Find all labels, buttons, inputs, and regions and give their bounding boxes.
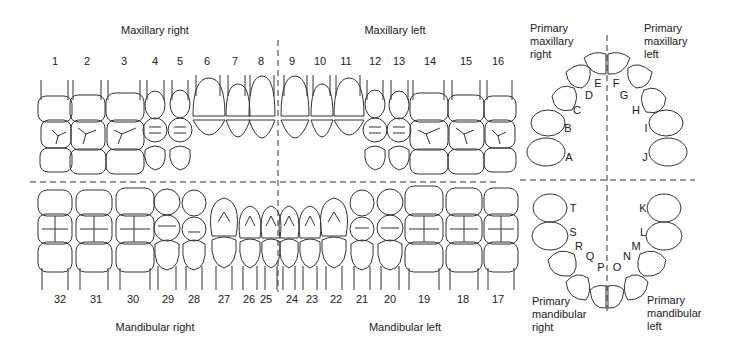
tooth-number: 4 bbox=[152, 55, 158, 67]
primary-tooth-letter: R bbox=[575, 240, 583, 252]
tooth-number: 27 bbox=[218, 293, 230, 305]
primary-tooth-letter: P bbox=[597, 261, 604, 273]
primary-tooth-letter: B bbox=[564, 122, 571, 134]
primary-lower-arch bbox=[532, 194, 682, 308]
tooth-number: 17 bbox=[492, 293, 504, 305]
primary-tooth-letter: I bbox=[644, 122, 647, 134]
tooth-number: 11 bbox=[340, 55, 351, 67]
primary-tooth-letter: N bbox=[623, 250, 631, 262]
tooth-number: 32 bbox=[54, 293, 66, 305]
primary-tooth-letter: E bbox=[594, 77, 601, 89]
primary-tooth-letter: L bbox=[640, 226, 646, 238]
primary-tooth-letter: H bbox=[632, 104, 640, 116]
primary-tooth-letter: D bbox=[585, 89, 593, 101]
primary-label-mandibular-right: Primary mandibular right bbox=[532, 295, 586, 334]
primary-tooth-letter: T bbox=[570, 202, 577, 214]
quadrant-label-maxillary-right: Maxillary right bbox=[121, 24, 189, 36]
primary-tooth-letter: F bbox=[613, 77, 620, 89]
tooth-number: 22 bbox=[330, 293, 342, 305]
tooth-number: 1 bbox=[52, 55, 58, 67]
tooth-number: 18 bbox=[457, 293, 469, 305]
tooth-number: 20 bbox=[384, 293, 396, 305]
primary-tooth-letter: C bbox=[573, 104, 581, 116]
tooth-number: 5 bbox=[177, 55, 183, 67]
tooth-number: 3 bbox=[121, 55, 127, 67]
tooth-number: 23 bbox=[306, 293, 318, 305]
tooth-number: 7 bbox=[232, 55, 238, 67]
primary-label-maxillary-right: Primary maxillary right bbox=[530, 22, 573, 61]
tooth-number: 6 bbox=[204, 55, 210, 67]
primary-tooth-letter: A bbox=[565, 151, 572, 163]
tooth-number: 26 bbox=[243, 293, 255, 305]
tooth-number: 30 bbox=[127, 293, 139, 305]
tooth-number: 13 bbox=[393, 55, 405, 67]
tooth-number: 31 bbox=[90, 293, 102, 305]
tooth-number: 2 bbox=[84, 55, 90, 67]
primary-label-maxillary-left: Primary maxillary left bbox=[644, 22, 687, 61]
primary-tooth-letter: O bbox=[613, 261, 622, 273]
tooth-number: 12 bbox=[369, 55, 381, 67]
tooth-number: 9 bbox=[289, 55, 295, 67]
primary-tooth-letter: Q bbox=[586, 250, 595, 262]
primary-tooth-letter: M bbox=[631, 240, 640, 252]
tooth-number: 19 bbox=[418, 293, 430, 305]
quadrant-label-mandibular-right: Mandibular right bbox=[116, 321, 195, 333]
tooth-number: 16 bbox=[492, 55, 504, 67]
quadrant-label-maxillary-left: Maxillary left bbox=[364, 24, 425, 36]
tooth-number: 28 bbox=[188, 293, 200, 305]
primary-label-mandibular-left: Primary mandibular left bbox=[647, 294, 701, 333]
tooth-number: 25 bbox=[260, 293, 272, 305]
primary-tooth-letter: G bbox=[620, 89, 629, 101]
tooth-number: 10 bbox=[314, 55, 326, 67]
tooth-number: 14 bbox=[424, 55, 436, 67]
tooth-number: 29 bbox=[162, 293, 174, 305]
tooth-number: 21 bbox=[356, 293, 368, 305]
primary-tooth-letter: K bbox=[639, 202, 646, 214]
tooth-number: 24 bbox=[286, 293, 298, 305]
tooth-number: 8 bbox=[258, 55, 264, 67]
primary-tooth-letter: S bbox=[569, 226, 576, 238]
tooth-number: 15 bbox=[460, 55, 472, 67]
upper-teeth bbox=[38, 75, 516, 174]
quadrant-label-mandibular-left: Mandibular left bbox=[369, 321, 441, 333]
primary-tooth-letter: J bbox=[642, 151, 648, 163]
